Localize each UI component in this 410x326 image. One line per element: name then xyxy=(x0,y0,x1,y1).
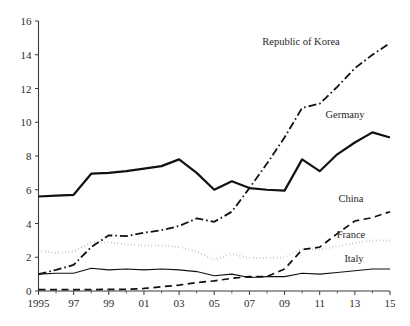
y-tick-label-14: 14 xyxy=(21,49,33,61)
series-label-france: France xyxy=(337,229,366,240)
x-tick-label-2001: 01 xyxy=(138,297,149,309)
y-tick-label-6: 6 xyxy=(26,184,32,196)
series-label-italy: Italy xyxy=(344,253,364,264)
y-tick-label-16: 16 xyxy=(21,15,33,27)
series-line-italy xyxy=(39,268,391,277)
y-tick-label-4: 4 xyxy=(26,218,32,230)
x-tick-label-1999: 99 xyxy=(103,297,115,309)
x-tick-label-1995: 1995 xyxy=(28,297,51,309)
series-line-china xyxy=(39,212,391,290)
series-label-china: China xyxy=(338,193,363,204)
y-tick-label-0: 0 xyxy=(26,285,32,297)
y-tick-label-12: 12 xyxy=(21,83,32,95)
x-tick-label-2015: 15 xyxy=(385,297,397,309)
y-tick-label-10: 10 xyxy=(21,116,33,128)
data-series-group xyxy=(39,43,391,290)
y-axis-tick-labels: 0246810121416 xyxy=(21,15,33,297)
series-label-republic-of-korea: Republic of Korea xyxy=(262,36,340,47)
x-tick-label-2003: 03 xyxy=(174,297,186,309)
series-label-germany: Germany xyxy=(325,109,365,120)
x-tick-label-2005: 05 xyxy=(209,297,221,309)
series-line-germany xyxy=(39,132,391,196)
line-chart: 0246810121416 199597990103050709111315 R… xyxy=(0,0,410,326)
x-tick-label-2009: 09 xyxy=(279,297,291,309)
x-tick-label-2013: 13 xyxy=(349,297,361,309)
y-tick-label-8: 8 xyxy=(26,150,32,162)
series-label-group: Republic of KoreaGermanyChinaFranceItaly xyxy=(262,36,365,264)
y-tick-label-2: 2 xyxy=(26,251,32,263)
x-tick-label-1997: 97 xyxy=(68,297,80,309)
x-axis-tick-marks xyxy=(39,291,391,295)
x-tick-label-2007: 07 xyxy=(244,297,256,309)
series-line-france xyxy=(39,240,391,259)
x-tick-label-2011: 11 xyxy=(314,297,325,309)
chart-svg: 0246810121416 199597990103050709111315 R… xyxy=(0,0,410,326)
x-axis-tick-labels: 199597990103050709111315 xyxy=(28,297,397,309)
